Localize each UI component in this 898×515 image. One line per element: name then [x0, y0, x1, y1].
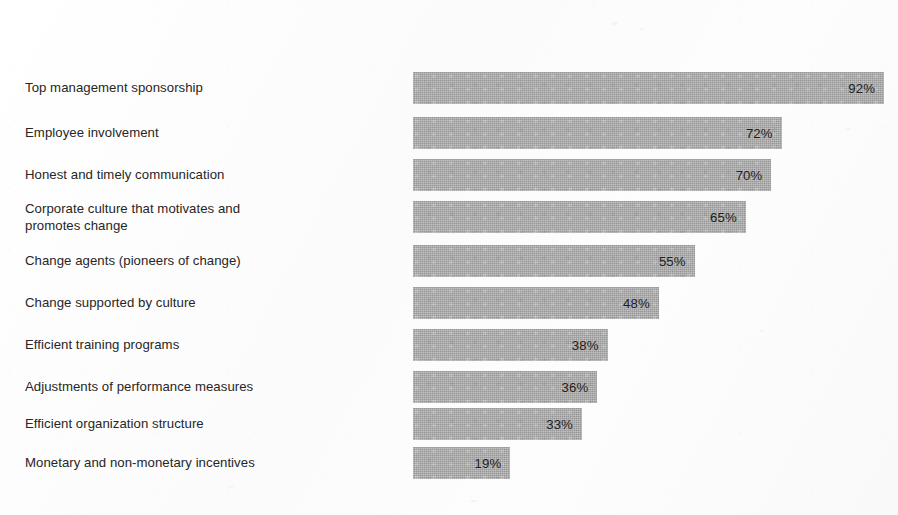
bar[interactable]: 55%: [413, 245, 695, 277]
category-label: Adjustments of performance measures: [25, 371, 400, 396]
bar-row: Honest and timely communication70%: [0, 159, 898, 191]
bar-row: Corporate culture that motivates and pro…: [0, 201, 898, 233]
bar-row: Change supported by culture48%: [0, 287, 898, 319]
category-label: Change supported by culture: [25, 287, 400, 312]
category-label: Monetary and non-monetary incentives: [25, 447, 400, 472]
bar-row: Top management sponsorship92%: [0, 72, 898, 104]
bar[interactable]: 33%: [413, 408, 582, 440]
bar-track: 72%: [413, 117, 891, 149]
category-label: Change agents (pioneers of change): [25, 245, 400, 270]
category-label: Honest and timely communication: [25, 159, 400, 184]
bar[interactable]: 92%: [413, 72, 884, 104]
bar-value-label: 92%: [848, 81, 884, 96]
bar-track: 33%: [413, 408, 891, 440]
scan-speck: [612, 22, 618, 25]
bar-value-label: 38%: [572, 338, 608, 353]
bar-value-label: 33%: [546, 417, 582, 432]
bar[interactable]: 70%: [413, 159, 771, 191]
bar-row: Efficient organization structure33%: [0, 408, 898, 440]
bar-track: 70%: [413, 159, 891, 191]
bar[interactable]: 19%: [413, 447, 510, 479]
bar-value-label: 70%: [736, 168, 772, 183]
bar[interactable]: 72%: [413, 117, 782, 149]
bar-track: 92%: [413, 72, 891, 104]
bar-value-label: 48%: [623, 296, 659, 311]
scan-speck: [470, 500, 477, 502]
bar-value-label: 19%: [475, 456, 511, 471]
bar-value-label: 36%: [562, 380, 598, 395]
bar[interactable]: 38%: [413, 329, 608, 361]
bar-track: 38%: [413, 329, 891, 361]
bar-row: Efficient training programs38%: [0, 329, 898, 361]
bar-value-label: 65%: [710, 210, 746, 225]
bar-track: 55%: [413, 245, 891, 277]
bar[interactable]: 48%: [413, 287, 659, 319]
bar-track: 65%: [413, 201, 891, 233]
bar-chart: Top management sponsorship92%Employee in…: [0, 0, 898, 515]
scan-speck: [640, 28, 644, 30]
bar-track: 19%: [413, 447, 891, 479]
scan-speck: [228, 486, 234, 488]
bar[interactable]: 36%: [413, 371, 597, 403]
bar-track: 48%: [413, 287, 891, 319]
category-label: Top management sponsorship: [25, 72, 400, 97]
bar-row: Change agents (pioneers of change)55%: [0, 245, 898, 277]
bar-row: Monetary and non-monetary incentives19%: [0, 447, 898, 479]
bar-row: Employee involvement72%: [0, 117, 898, 149]
category-label: Employee involvement: [25, 117, 400, 142]
category-label: Efficient training programs: [25, 329, 400, 354]
category-label: Efficient organization structure: [25, 408, 400, 433]
bar-track: 36%: [413, 371, 891, 403]
bar-value-label: 72%: [746, 126, 782, 141]
bar-value-label: 55%: [659, 254, 695, 269]
category-label: Corporate culture that motivates and pro…: [25, 201, 400, 234]
bar-row: Adjustments of performance measures36%: [0, 371, 898, 403]
bar[interactable]: 65%: [413, 201, 746, 233]
